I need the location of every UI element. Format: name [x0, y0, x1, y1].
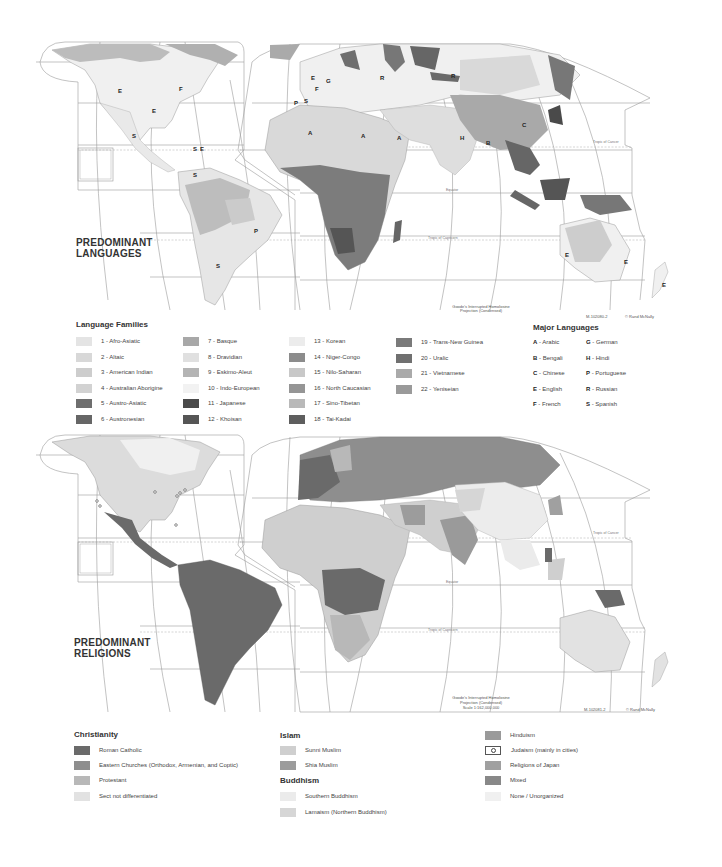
swatch — [183, 368, 199, 377]
major-language-item: F - French — [533, 401, 561, 407]
legend-item: 3 - American Indian — [76, 367, 153, 377]
language-code: P — [586, 370, 590, 376]
languages-map: PREDOMINANT LANGUAGES Tropic of Cancer T… — [0, 0, 722, 310]
swatch — [289, 368, 305, 377]
legend-item: 10 - Indo-European — [183, 383, 260, 393]
swatch — [74, 746, 90, 755]
legend-item: 13 - Korean — [289, 336, 345, 346]
legend-label: 10 - Indo-European — [208, 385, 260, 391]
major-language-item: C - Chinese — [533, 370, 565, 376]
swatch — [485, 761, 501, 770]
region-label: A — [397, 135, 401, 141]
swatch — [183, 399, 199, 408]
religions-map-title: PREDOMINANT RELIGIONS — [74, 637, 151, 659]
language-code: A — [533, 339, 537, 345]
swatch — [76, 368, 92, 377]
legend-label: 4 - Australian Aborigine — [101, 385, 163, 391]
legend-item: None / Unorganized — [485, 791, 563, 801]
legend-item: 15 - Nilo-Saharan — [289, 367, 361, 377]
legend-item: Sect not differentiated — [74, 791, 157, 801]
region-label: E — [565, 252, 569, 258]
legend-item: Shia Muslim — [280, 760, 338, 770]
tropic-of-cancer-label: Tropic of Cancer — [593, 531, 619, 535]
region-label: P — [294, 100, 298, 106]
swatch — [74, 776, 90, 785]
swatch — [396, 385, 412, 394]
swatch — [396, 354, 412, 363]
legend-label: 17 - Sino-Tibetan — [314, 400, 360, 406]
language-name: French — [542, 401, 561, 407]
region-label: E — [200, 146, 204, 152]
region-label: P — [254, 228, 258, 234]
region-label: F — [315, 86, 319, 92]
region-label: B — [486, 140, 490, 146]
region-label: E — [118, 88, 122, 94]
legend-label: Hinduism — [510, 732, 535, 738]
legend-item: Eastern Churches (Orthodox, Armenian, an… — [74, 760, 238, 770]
legend-item: 17 - Sino-Tibetan — [289, 398, 360, 408]
language-name: Bengali — [543, 355, 563, 361]
language-code: B — [533, 355, 537, 361]
legend-label: Southern Buddhism — [305, 793, 358, 799]
major-language-item: R - Russian — [586, 386, 617, 392]
swatch — [485, 731, 501, 740]
tropic-of-cancer-label: Tropic of Cancer — [593, 140, 619, 144]
legend-label: 3 - American Indian — [101, 369, 153, 375]
language-name: English — [542, 386, 562, 392]
religions-map: PREDOMINANT RELIGIONS Tropic of Cancer T… — [0, 420, 722, 720]
swatch — [76, 399, 92, 408]
legend-label: 14 - Niger-Congo — [314, 354, 360, 360]
legend-item: Sunni Muslim — [280, 745, 341, 755]
major-language-item: B - Bengali — [533, 355, 563, 361]
region-label: S — [193, 146, 197, 152]
legend-label: 21 - Vietnamese — [421, 370, 465, 376]
region-label: E — [624, 259, 628, 265]
legend-item: 2 - Altaic — [76, 352, 124, 362]
language-code: E — [533, 386, 537, 392]
language-name: Russian — [596, 386, 618, 392]
christianity-title: Christianity — [74, 730, 118, 739]
legend-item: 14 - Niger-Congo — [289, 352, 360, 362]
legend-label: Lamaism (Northern Buddhism) — [305, 809, 387, 815]
region-label: S — [304, 98, 308, 104]
legend-item: Judaism (mainly in cities) — [485, 745, 578, 755]
map-id: M-102081-2 — [584, 707, 606, 712]
legend-label: Sunni Muslim — [305, 747, 341, 753]
swatch — [280, 792, 296, 801]
swatch — [289, 384, 305, 393]
religions-map-graphic — [0, 420, 722, 720]
legend-item: 9 - Eskimo-Aleut — [183, 367, 252, 377]
projection-line: Projection (Condensed) — [436, 308, 526, 313]
legend-label: 15 - Nilo-Saharan — [314, 369, 361, 375]
legend-item: Religions of Japan — [485, 760, 559, 770]
swatch — [74, 761, 90, 770]
legend-label: Sect not differentiated — [99, 793, 157, 799]
major-language-item: G - German — [586, 339, 618, 345]
legend-label: 22 - Yeniseian — [421, 386, 459, 392]
equator-label: Equator — [446, 188, 458, 192]
legend-label: Religions of Japan — [510, 762, 559, 768]
projection-note-cont: Projection (Condensed) — [436, 308, 526, 313]
swatch — [183, 384, 199, 393]
swatch — [183, 353, 199, 362]
region-label: E — [152, 108, 156, 114]
legend-label: Eastern Churches (Orthodox, Armenian, an… — [99, 762, 238, 768]
legend-item: 4 - Australian Aborigine — [76, 383, 163, 393]
copyright-credit: © Rand McNally — [626, 707, 655, 712]
legend-item: 8 - Dravidian — [183, 352, 242, 362]
major-language-item: S - Spanish — [586, 401, 617, 407]
legend-item: 19 - Trans-New Guinea — [396, 337, 483, 347]
region-label: C — [522, 122, 526, 128]
swatch — [289, 337, 305, 346]
language-code: S — [586, 401, 590, 407]
legend-item: Roman Catholic — [74, 745, 142, 755]
language-code: R — [586, 386, 590, 392]
swatch — [76, 384, 92, 393]
legend-item: Southern Buddhism — [280, 791, 358, 801]
region-label: E — [662, 282, 666, 288]
legend-item: 21 - Vietnamese — [396, 368, 465, 378]
islam-title: Islam — [280, 731, 300, 740]
swatch — [280, 808, 296, 817]
swatch — [76, 337, 92, 346]
legend-label: Shia Muslim — [305, 762, 338, 768]
